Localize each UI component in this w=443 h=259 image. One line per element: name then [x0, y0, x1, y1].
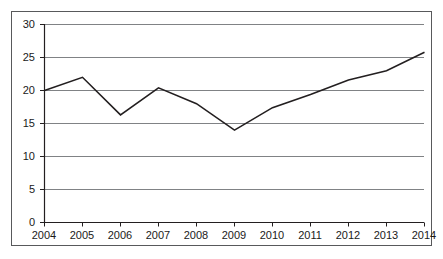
x-axis-ticks	[45, 223, 425, 227]
x-axis-label-2014: 2014	[404, 230, 443, 241]
x-axis-label-2004: 2004	[24, 230, 64, 241]
gridlines	[44, 25, 424, 190]
y-axis-label-10: 10	[5, 151, 35, 162]
y-axis-label-25: 25	[5, 52, 35, 63]
x-axis-label-2012: 2012	[328, 230, 368, 241]
x-axis-label-2013: 2013	[366, 230, 406, 241]
x-axis-label-2009: 2009	[214, 230, 254, 241]
x-axis-label-2007: 2007	[138, 230, 178, 241]
x-axis-label-2005: 2005	[62, 230, 102, 241]
x-axis-label-2010: 2010	[252, 230, 292, 241]
y-axis-label-5: 5	[5, 184, 35, 195]
chart-plot-svg	[0, 0, 443, 259]
line-chart-figure: 30 25 20 15 10 5 0 2004 2005 2006 2007 2…	[0, 0, 443, 259]
x-axis-label-2006: 2006	[100, 230, 140, 241]
y-axis-ticks	[40, 25, 44, 223]
y-axis-label-20: 20	[5, 85, 35, 96]
data-series-line	[45, 52, 425, 130]
x-axis-label-2008: 2008	[176, 230, 216, 241]
y-axis-label-15: 15	[5, 118, 35, 129]
y-axis-label-0: 0	[5, 217, 35, 228]
y-axis-label-30: 30	[5, 19, 35, 30]
x-axis-label-2011: 2011	[290, 230, 330, 241]
